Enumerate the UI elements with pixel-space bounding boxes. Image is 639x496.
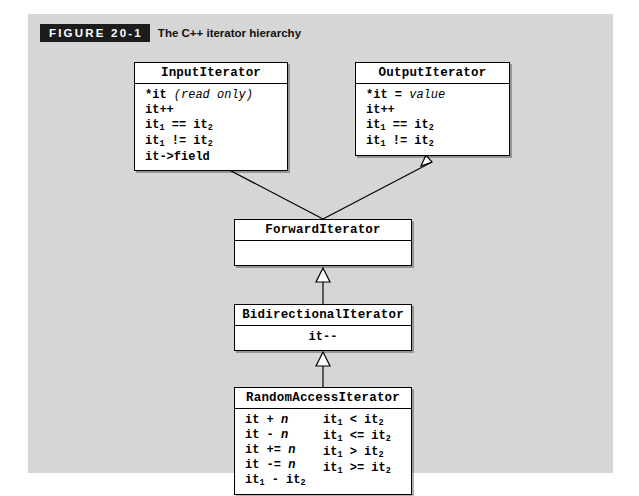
operation-row: it1 == it2 (366, 118, 499, 134)
operation-row: it -= n (245, 458, 323, 473)
operand-subscript: 2 (386, 434, 391, 444)
operation-row: it1 == it2 (145, 118, 277, 134)
operand-subscript: 2 (429, 139, 434, 149)
operand-subscript: 2 (301, 478, 306, 488)
operation-code: it -= (245, 458, 288, 472)
operation-row: it1 <= it2 (323, 429, 401, 445)
operation-note: (read only) (174, 88, 253, 102)
operation-operator: == it (165, 118, 208, 132)
operand-subscript: 2 (379, 450, 384, 460)
operation-row: it++ (145, 103, 277, 118)
operation-code: it (323, 461, 337, 475)
operation-code: it (323, 429, 337, 443)
operation-row: it + n (245, 413, 323, 428)
operand-subscript: 2 (208, 123, 213, 133)
operation-code: it (366, 118, 380, 132)
operation-operator: != it (386, 134, 429, 148)
uml-class-random-access-iterator[interactable]: RandomAccessIterator it + n it - n it +=… (234, 387, 412, 495)
operand-subscript: 1 (159, 123, 164, 133)
operand-subscript: 2 (208, 139, 213, 149)
operation-row: it - n (245, 428, 323, 443)
operation-code: *it (145, 88, 167, 102)
operation-code: it (245, 473, 259, 487)
operand-subscript: 1 (380, 123, 385, 133)
operand-subscript: 1 (380, 139, 385, 149)
operation-row: it1 != it2 (145, 134, 277, 150)
operation-code: it-- (309, 330, 338, 344)
class-title-forward-iterator: ForwardIterator (235, 220, 411, 241)
class-operations-input-iterator: *it (read only) it++ it1 == it2 it1 != i… (135, 84, 287, 170)
class-operations-bidirectional-iterator: it-- (235, 326, 411, 350)
operation-row: it1 > it2 (323, 445, 401, 461)
operation-row: it++ (366, 103, 499, 118)
operation-code: it++ (366, 103, 395, 117)
operation-operator: < it (343, 413, 379, 427)
uml-class-input-iterator[interactable]: InputIterator *it (read only) it++ it1 =… (134, 62, 288, 171)
uml-class-forward-iterator[interactable]: ForwardIterator (234, 219, 412, 266)
edge-bidirectional-to-forward (316, 268, 330, 304)
operand-subscript: 1 (337, 466, 342, 476)
operation-code: it (366, 134, 380, 148)
operand-subscript: 2 (379, 418, 384, 428)
operation-operator: != it (165, 134, 208, 148)
operation-operator: - it (265, 473, 301, 487)
operation-columns: it + n it - n it += n it -= n it1 - it2 (245, 413, 401, 489)
edge-forward-to-output (323, 155, 432, 219)
operation-operator: >= it (343, 461, 386, 475)
class-title-bidirectional-iterator: BidirectionalIterator (235, 305, 411, 326)
operand-subscript: 2 (386, 466, 391, 476)
figure-panel: FIGURE 20-1 The C++ iterator hierarchy (28, 14, 613, 473)
operand-n: n (288, 443, 295, 457)
operation-code: it->field (145, 150, 210, 164)
class-title-output-iterator: OutputIterator (356, 63, 509, 84)
edge-random-to-bidirectional (316, 352, 330, 387)
class-operations-output-iterator: *it = value it++ it1 == it2 it1 != it2 (356, 84, 509, 155)
class-operations-forward-iterator (235, 241, 411, 265)
operation-column-arithmetic: it + n it - n it += n it -= n it1 - it2 (245, 413, 323, 489)
operation-row: *it (read only) (145, 88, 277, 103)
operation-row: it1 < it2 (323, 413, 401, 429)
class-title-input-iterator: InputIterator (135, 63, 287, 84)
class-operations-random-access-iterator: it + n it - n it += n it -= n it1 - it2 (235, 409, 411, 494)
operand-n: n (281, 428, 288, 442)
operation-code: it (323, 445, 337, 459)
operation-row: it += n (245, 443, 323, 458)
operation-code: it (145, 134, 159, 148)
operation-row: it-- (245, 330, 401, 345)
operand-subscript: 1 (337, 450, 342, 460)
operation-code: it += (245, 443, 288, 457)
operation-note: value (409, 88, 445, 102)
operation-operator: <= it (343, 429, 386, 443)
operation-operator: > it (343, 445, 379, 459)
operation-row: it1 != it2 (366, 134, 499, 150)
operation-row: it1 >= it2 (323, 461, 401, 477)
operation-code: it - (245, 428, 281, 442)
operation-code: it + (245, 413, 281, 427)
operation-row: *it = value (366, 88, 499, 103)
operation-code: it (145, 118, 159, 132)
operation-code: it++ (145, 103, 174, 117)
operand-subscript: 1 (337, 434, 342, 444)
operand-subscript: 1 (159, 139, 164, 149)
operand-subscript: 2 (429, 123, 434, 133)
uml-class-bidirectional-iterator[interactable]: BidirectionalIterator it-- (234, 304, 412, 351)
operand-subscript: 1 (337, 418, 342, 428)
operation-code: it (323, 413, 337, 427)
class-title-random-access-iterator: RandomAccessIterator (235, 388, 411, 409)
operation-operator: == it (386, 118, 429, 132)
uml-class-diagram: InputIterator *it (read only) it++ it1 =… (28, 14, 613, 473)
operand-subscript: 1 (259, 478, 264, 488)
operation-row: it1 - it2 (245, 473, 323, 489)
operation-row: it->field (145, 150, 277, 165)
operand-n: n (288, 458, 295, 472)
operation-column-comparison: it1 < it2 it1 <= it2 it1 > it2 it1 >= it… (323, 413, 401, 489)
operand-n: n (281, 413, 288, 427)
operation-code: *it = (366, 88, 402, 102)
uml-class-output-iterator[interactable]: OutputIterator *it = value it++ it1 == i… (355, 62, 510, 156)
